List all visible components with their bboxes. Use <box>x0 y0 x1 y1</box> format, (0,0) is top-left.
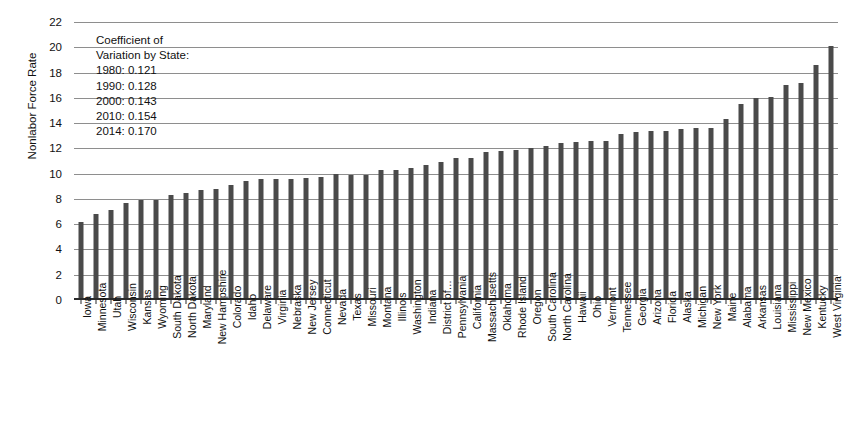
bar <box>364 175 369 300</box>
annotation-coefficient-of-variation: Coefficient of Variation by State: 1980:… <box>96 33 189 139</box>
x-label-slot: Vermont <box>598 305 613 423</box>
y-tick-label: 22 <box>49 16 62 28</box>
bar-slot <box>643 22 658 300</box>
y-tick-label: 10 <box>49 168 62 180</box>
annotation-line-5: 2000: 0.143 <box>96 94 189 109</box>
x-axis-tick-labels: IowaMinnesotaUtahWisconsinKansasWyomingS… <box>74 305 838 423</box>
y-tick-label: 8 <box>56 193 62 205</box>
bar <box>693 128 698 300</box>
bar-slot <box>359 22 374 300</box>
x-label-slot: New York <box>703 305 718 423</box>
bar <box>813 65 818 300</box>
y-tick-label: 18 <box>49 67 62 79</box>
x-label-slot: Minnesota <box>89 305 104 423</box>
x-label-slot: Arizona <box>643 305 658 423</box>
bar-slot <box>254 22 269 300</box>
bar-slot <box>269 22 284 300</box>
x-label-slot: West Virginia <box>823 305 838 423</box>
bar-slot <box>658 22 673 300</box>
x-label-slot: District of… <box>434 305 449 423</box>
bar <box>289 179 294 300</box>
x-label-slot: Colorado <box>224 305 239 423</box>
x-label-slot: Tennessee <box>613 305 628 423</box>
bar-slot <box>823 22 838 300</box>
y-tick-label: 4 <box>56 243 62 255</box>
bar <box>424 165 429 300</box>
y-tick-label: 2 <box>56 269 62 281</box>
bar-slot <box>733 22 748 300</box>
x-label-slot: Oklahoma <box>493 305 508 423</box>
x-label-slot: New Jersey <box>299 305 314 423</box>
bar <box>708 128 713 300</box>
bar-slot <box>568 22 583 300</box>
x-label-slot: South Carolina <box>538 305 553 423</box>
x-label-slot: Mississippi <box>778 305 793 423</box>
bar-slot <box>314 22 329 300</box>
bar <box>723 119 728 300</box>
bar-slot <box>628 22 643 300</box>
x-label-slot: Alaska <box>673 305 688 423</box>
bar <box>349 175 354 300</box>
x-label-slot: New Hampshire <box>209 305 224 423</box>
bar-slot <box>463 22 478 300</box>
annotation-line-2: Variation by State: <box>96 48 189 63</box>
x-label-slot: Massachusetts <box>478 305 493 423</box>
x-label-slot: California <box>463 305 478 423</box>
x-label-slot: Illinois <box>389 305 404 423</box>
bar-slot <box>209 22 224 300</box>
x-label-slot: Kansas <box>134 305 149 423</box>
annotation-line-7: 2014: 0.170 <box>96 124 189 139</box>
bar-slot <box>284 22 299 300</box>
annotation-line-1: Coefficient of <box>96 33 189 48</box>
bar <box>633 132 638 300</box>
bar-slot <box>553 22 568 300</box>
bar-slot <box>419 22 434 300</box>
y-tick-label: 12 <box>49 142 62 154</box>
bar-slot <box>778 22 793 300</box>
bar-slot <box>389 22 404 300</box>
y-tick-label: 6 <box>56 218 62 230</box>
x-label-slot: Georgia <box>628 305 643 423</box>
bar-slot <box>673 22 688 300</box>
bar-slot <box>748 22 763 300</box>
x-label-slot: Idaho <box>239 305 254 423</box>
bar <box>618 134 623 300</box>
bar-slot <box>583 22 598 300</box>
bar <box>753 98 758 300</box>
bar <box>768 97 773 300</box>
x-label-slot: Nevada <box>329 305 344 423</box>
y-tick-label: 14 <box>49 117 62 129</box>
x-label-slot: North Dakota <box>179 305 194 423</box>
bar-slot <box>523 22 538 300</box>
bar-slot <box>344 22 359 300</box>
bar <box>663 131 668 300</box>
x-label-slot: Alabama <box>733 305 748 423</box>
bar <box>79 222 84 300</box>
annotation-line-3: 1980: 0.121 <box>96 63 189 78</box>
bar-slot <box>194 22 209 300</box>
bar <box>648 131 653 300</box>
bar-slot <box>329 22 344 300</box>
bar <box>379 170 384 300</box>
bar-slot <box>493 22 508 300</box>
x-label-slot: Texas <box>344 305 359 423</box>
bar-slot <box>808 22 823 300</box>
x-label-slot: Arkansas <box>748 305 763 423</box>
x-label-slot: Virginia <box>269 305 284 423</box>
bar <box>274 179 279 300</box>
bar <box>678 129 683 300</box>
y-tick-label: 20 <box>49 41 62 53</box>
x-label-slot: Utah <box>104 305 119 423</box>
bar <box>229 185 234 300</box>
bar-slot <box>74 22 89 300</box>
x-label-slot: Pennsylvania <box>449 305 464 423</box>
x-label-slot: Ohio <box>583 305 598 423</box>
annotation-line-4: 1990: 0.128 <box>96 79 189 94</box>
y-axis-tick-labels: 0246810121416182022 <box>0 22 70 300</box>
x-label-slot: Delaware <box>254 305 269 423</box>
bar <box>528 148 533 300</box>
bar <box>783 85 788 300</box>
x-label-slot: Connecticut <box>314 305 329 423</box>
y-tick-label: 0 <box>56 294 62 306</box>
bar-slot <box>538 22 553 300</box>
